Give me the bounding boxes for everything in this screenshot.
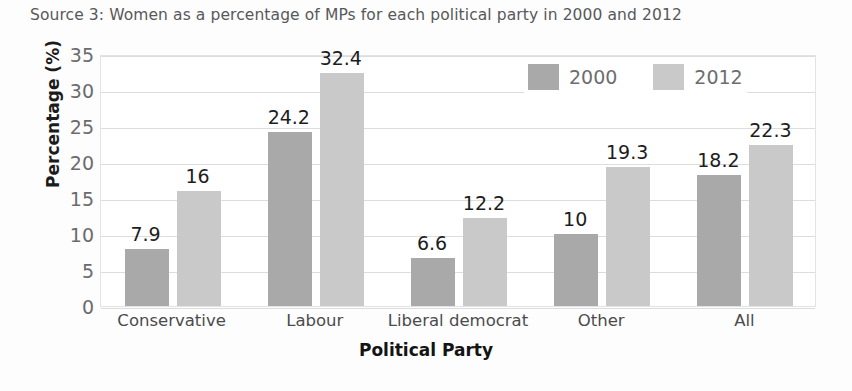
bar-2000-conservative: [125, 249, 169, 306]
bar-value-label: 32.4: [320, 47, 362, 69]
bar-2012-all: [749, 145, 793, 306]
bar-value-label: 6.6: [417, 232, 447, 254]
y-axis-tick-label: 5: [54, 260, 94, 282]
legend-entry-2000: 2000: [528, 64, 617, 90]
x-axis-tick-label: Conservative: [117, 311, 225, 330]
bar-2000-all: [697, 175, 741, 306]
bar-value-label: 12.2: [463, 192, 505, 214]
bar-value-label: 7.9: [130, 223, 160, 245]
bar-2012-labour: [320, 73, 364, 306]
bar-value-label: 19.3: [606, 141, 648, 163]
chart-title: Source 3: Women as a percentage of MPs f…: [30, 6, 682, 24]
legend-swatch-icon: [528, 64, 559, 90]
bar-value-label: 10: [563, 208, 587, 230]
bar-2000-other: [554, 234, 598, 306]
legend-label: 2000: [569, 66, 617, 88]
y-axis-tick-label: 10: [54, 224, 94, 246]
x-axis-title: Political Party: [0, 340, 852, 360]
chart-legend: 20002012: [524, 60, 747, 94]
bar-value-label: 22.3: [749, 119, 791, 141]
gridline: [101, 128, 815, 129]
gridline: [101, 56, 815, 57]
legend-label: 2012: [694, 66, 742, 88]
x-axis-tick-label: Liberal democrat: [388, 311, 528, 330]
bar-2012-conservative: [177, 191, 221, 306]
x-axis-tick-label: All: [734, 311, 754, 330]
y-axis-tick-label: 0: [54, 296, 94, 318]
legend-entry-2012: 2012: [653, 64, 742, 90]
y-axis-title: Percentage (%): [43, 14, 63, 214]
legend-swatch-icon: [653, 64, 684, 90]
bar-2000-liberal-democrat: [411, 258, 455, 306]
bar-2012-other: [606, 167, 650, 306]
gridline: [101, 308, 815, 309]
x-axis-tick-label: Labour: [286, 311, 343, 330]
bar-2012-liberal-democrat: [463, 218, 507, 306]
chart-figure: Source 3: Women as a percentage of MPs f…: [0, 0, 852, 391]
bar-value-label: 16: [186, 165, 210, 187]
x-axis-tick-label: Other: [578, 311, 625, 330]
bar-value-label: 18.2: [697, 149, 739, 171]
bar-2000-labour: [268, 132, 312, 306]
bar-value-label: 24.2: [268, 106, 310, 128]
